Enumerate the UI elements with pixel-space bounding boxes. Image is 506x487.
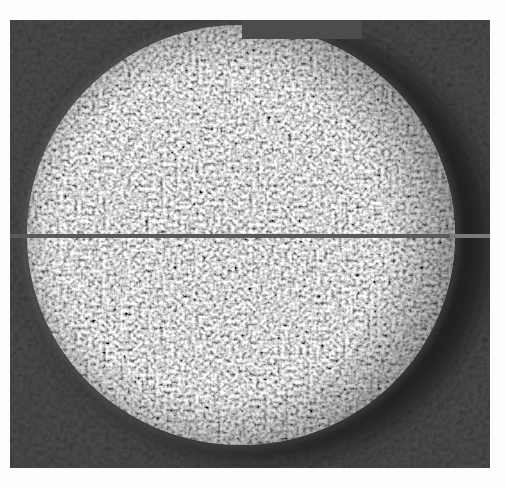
speckle-disc-photo [10,20,490,468]
top-chord-notch [242,20,362,39]
horizontal-line [10,234,490,238]
scanned-page [0,0,506,487]
